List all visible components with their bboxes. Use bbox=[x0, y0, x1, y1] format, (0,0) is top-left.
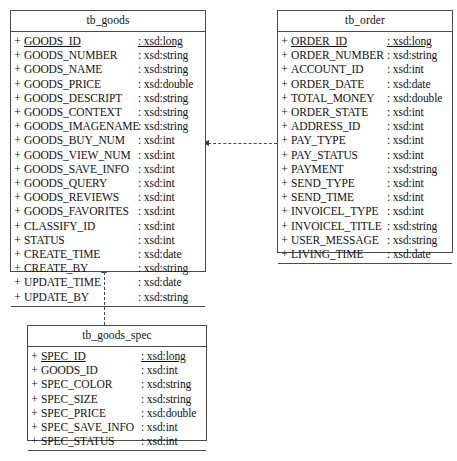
attribute-row: +GOODS_VIEW_NUM: xsd:int bbox=[11, 148, 205, 162]
attribute-type: : xsd:string bbox=[141, 392, 191, 406]
attribute-visibility: + bbox=[278, 133, 291, 147]
attribute-visibility: + bbox=[11, 275, 24, 289]
attribute-name: GOODS_VIEW_NUM bbox=[24, 148, 131, 162]
attribute-visibility: + bbox=[11, 133, 24, 147]
attribute-row: +INVOICEL_TYPE: xsd:int bbox=[278, 204, 452, 218]
attribute-visibility: + bbox=[278, 219, 291, 233]
attribute-type: : xsd:long bbox=[138, 34, 183, 48]
class-box-tb-goods-spec[interactable]: tb_goods_spec +SPEC_ID: xsd:long+GOODS_I… bbox=[27, 325, 207, 441]
attribute-type: : xsd:string bbox=[138, 290, 188, 304]
attribute-name: GOODS_REVIEWS bbox=[24, 190, 119, 204]
attribute-visibility: + bbox=[278, 77, 291, 91]
attribute-name: ACCOUNT_ID bbox=[291, 62, 363, 76]
attribute-row: +ORDER_NUMBER: xsd:string bbox=[278, 48, 452, 62]
attribute-row: +GOODS_IMAGENAME: xsd:string bbox=[11, 119, 205, 133]
class-title-tb-goods: tb_goods bbox=[11, 11, 205, 32]
attribute-visibility: + bbox=[278, 105, 291, 119]
attribute-row: +SPEC_COLOR: xsd:string bbox=[28, 377, 206, 391]
attribute-visibility: + bbox=[28, 406, 41, 420]
diagram-canvas: tb_goods +GOODS_ID: xsd:long+GOODS_NUMBE… bbox=[0, 0, 457, 461]
attribute-row: +SPEC_SAVE_INFO: xsd:int bbox=[28, 420, 206, 434]
attribute-name: UPDATE_BY bbox=[24, 290, 89, 304]
attribute-visibility: + bbox=[11, 290, 24, 304]
attribute-visibility: + bbox=[28, 349, 41, 363]
attribute-visibility: + bbox=[278, 62, 291, 76]
attribute-type: : xsd:int bbox=[141, 420, 177, 434]
attribute-type: : xsd:int bbox=[141, 434, 177, 448]
attribute-visibility: + bbox=[278, 204, 291, 218]
attribute-visibility: + bbox=[11, 162, 24, 176]
attribute-visibility: + bbox=[11, 261, 24, 275]
attribute-name: SPEC_ID bbox=[41, 349, 86, 363]
attribute-type: : xsd:int bbox=[387, 190, 423, 204]
attribute-visibility: + bbox=[278, 34, 291, 48]
attribute-type: : xsd:string bbox=[138, 62, 188, 76]
attribute-type: : xsd:string bbox=[387, 162, 437, 176]
attribute-type: : xsd:double bbox=[138, 77, 193, 91]
attribute-row: +GOODS_SAVE_INFO: xsd:int bbox=[11, 162, 205, 176]
attribute-name: GOODS_ID bbox=[24, 34, 81, 48]
attribute-type: : xsd:int bbox=[138, 176, 174, 190]
attribute-visibility: + bbox=[278, 190, 291, 204]
attribute-row: +GOODS_NUMBER: xsd:string bbox=[11, 48, 205, 62]
attribute-row: +ORDER_ID: xsd:long bbox=[278, 34, 452, 48]
attribute-name: ORDER_DATE bbox=[291, 77, 364, 91]
attribute-type: : xsd:date bbox=[138, 275, 181, 289]
attribute-type: : xsd:double bbox=[141, 406, 196, 420]
attribute-name: GOODS_DESCRIPT bbox=[24, 91, 122, 105]
attribute-type: : xsd:int bbox=[138, 162, 174, 176]
attribute-name: ORDER_STATE bbox=[291, 105, 368, 119]
attribute-type: : xsd:date bbox=[387, 247, 430, 261]
attribute-row: +CLASSIFY_ID: xsd:int bbox=[11, 219, 205, 233]
attribute-type: : xsd:string bbox=[138, 261, 188, 275]
attribute-name: ADDRESS_ID bbox=[291, 119, 360, 133]
attribute-row: +GOODS_REVIEWS: xsd:int bbox=[11, 190, 205, 204]
attribute-name: SPEC_COLOR bbox=[41, 377, 112, 391]
attribute-row: +SPEC_SIZE: xsd:string bbox=[28, 392, 206, 406]
methods-compartment-tb-goods bbox=[11, 307, 205, 324]
attribute-row: +UPDATE_BY: xsd:string bbox=[11, 290, 205, 304]
relationship-order-to-goods[interactable] bbox=[208, 143, 277, 144]
attribute-row: +GOODS_NAME: xsd:string bbox=[11, 62, 205, 76]
attribute-row: +USER_MESSAGE: xsd:string bbox=[278, 233, 452, 247]
attribute-visibility: + bbox=[11, 77, 24, 91]
attribute-name: GOODS_NUMBER bbox=[24, 48, 117, 62]
attribute-name: GOODS_FAVORITES bbox=[24, 204, 129, 218]
attribute-type: : xsd:date bbox=[138, 247, 181, 261]
attribute-type: : xsd:int bbox=[387, 148, 423, 162]
class-title-tb-goods-spec: tb_goods_spec bbox=[28, 326, 206, 347]
attribute-type: : xsd:double bbox=[387, 91, 442, 105]
attribute-visibility: + bbox=[11, 148, 24, 162]
attribute-row: +ORDER_STATE: xsd:int bbox=[278, 105, 452, 119]
attribute-type: : xsd:string bbox=[387, 48, 437, 62]
attribute-visibility: + bbox=[11, 48, 24, 62]
attribute-row: +GOODS_CONTEXT: xsd:string bbox=[11, 105, 205, 119]
class-box-tb-order[interactable]: tb_order +ORDER_ID: xsd:long+ORDER_NUMBE… bbox=[277, 10, 453, 253]
attribute-name: PAY_STATUS bbox=[291, 148, 358, 162]
attribute-visibility: + bbox=[278, 119, 291, 133]
attribute-visibility: + bbox=[28, 363, 41, 377]
attribute-type: : xsd:long bbox=[141, 349, 186, 363]
class-box-tb-goods[interactable]: tb_goods +GOODS_ID: xsd:long+GOODS_NUMBE… bbox=[10, 10, 206, 272]
attribute-visibility: + bbox=[278, 148, 291, 162]
attribute-type: : xsd:int bbox=[387, 176, 423, 190]
attribute-row: +GOODS_QUERY: xsd:int bbox=[11, 176, 205, 190]
attribute-row: +ADDRESS_ID: xsd:int bbox=[278, 119, 452, 133]
attribute-row: +PAY_TYPE: xsd:int bbox=[278, 133, 452, 147]
attribute-type: : xsd:string bbox=[141, 377, 191, 391]
attribute-name: PAYMENT bbox=[291, 162, 344, 176]
attribute-visibility: + bbox=[11, 219, 24, 233]
attribute-type: : xsd:int bbox=[387, 133, 423, 147]
attribute-visibility: + bbox=[278, 48, 291, 62]
attribute-row: +SPEC_PRICE: xsd:double bbox=[28, 406, 206, 420]
attribute-visibility: + bbox=[28, 377, 41, 391]
attribute-visibility: + bbox=[278, 91, 291, 105]
attribute-visibility: + bbox=[11, 190, 24, 204]
attribute-visibility: + bbox=[11, 119, 24, 133]
attribute-type: : xsd:int bbox=[387, 204, 423, 218]
attribute-type: : xsd:long bbox=[387, 34, 432, 48]
attribute-row: +CREATE_BY: xsd:string bbox=[11, 261, 205, 275]
attribute-type: : xsd:string bbox=[138, 48, 188, 62]
attribute-name: SPEC_PRICE bbox=[41, 406, 106, 420]
attribute-type: : xsd:int bbox=[138, 233, 174, 247]
